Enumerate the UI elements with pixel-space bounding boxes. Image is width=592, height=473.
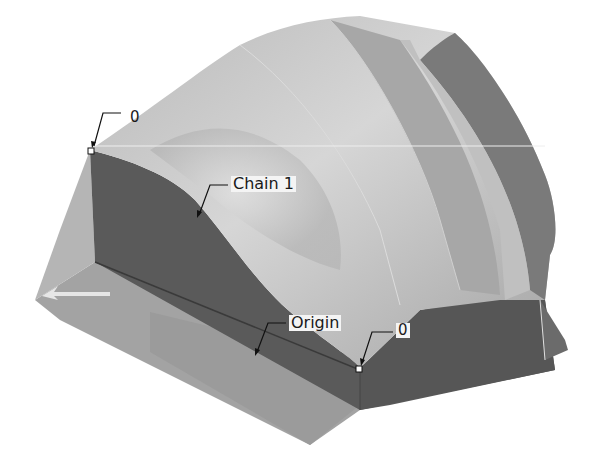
surface-model-view [0,0,592,473]
end-point-marker[interactable] [356,366,362,372]
origin-label: Origin [289,315,341,331]
chain-label: Chain 1 [231,176,296,192]
start-point-marker[interactable] [88,148,94,154]
start-point-label: 0 [128,110,142,125]
end-point-label: 0 [396,323,410,338]
